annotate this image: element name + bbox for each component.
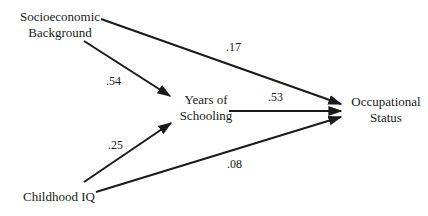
arrow-iq-to-occ bbox=[96, 117, 341, 192]
node-socioeconomic-background: Socioeconomic Background bbox=[18, 9, 102, 41]
node-label-line2: Status bbox=[344, 110, 428, 126]
coefficient-ses-school: .54 bbox=[106, 74, 121, 88]
node-childhood-iq: Childhood IQ bbox=[22, 189, 96, 205]
node-occupational-status: Occupational Status bbox=[344, 94, 428, 126]
node-label-line1: Occupational bbox=[344, 94, 428, 110]
node-label-line1: Years of bbox=[170, 92, 242, 108]
arrow-ses-to-school bbox=[84, 41, 170, 96]
node-label-line2: Background bbox=[18, 25, 102, 41]
coefficient-iq-occ: .08 bbox=[227, 157, 242, 171]
node-years-of-schooling: Years of Schooling bbox=[170, 92, 242, 124]
coefficient-ses-occ: .17 bbox=[226, 40, 241, 54]
node-label-line1: Childhood IQ bbox=[22, 189, 96, 205]
coefficient-school-occ: .53 bbox=[268, 90, 283, 104]
coefficient-iq-school: .25 bbox=[108, 138, 123, 152]
node-label-line2: Schooling bbox=[170, 108, 242, 124]
node-label-line1: Socioeconomic bbox=[18, 9, 102, 25]
